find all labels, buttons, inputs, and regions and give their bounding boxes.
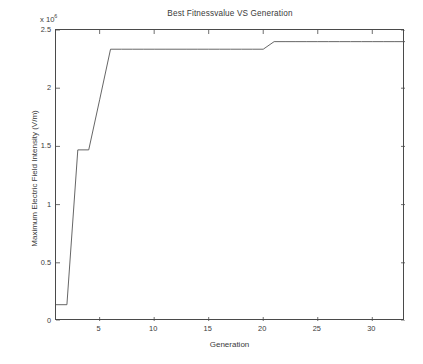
- x-tick-label: 20: [247, 324, 277, 333]
- y-tick-label: 0: [26, 316, 51, 325]
- y-axis-exponent-label: x 106: [40, 13, 57, 24]
- y-tick-label: 2.5: [26, 25, 51, 34]
- x-tick-label: 25: [302, 324, 332, 333]
- tick-marks-group: [56, 30, 405, 321]
- x-tick-label: 15: [193, 324, 223, 333]
- plot-svg: [56, 30, 405, 321]
- x-tick-label: 30: [356, 324, 386, 333]
- y-exponent-base: x 10: [40, 15, 54, 24]
- chart-figure: Best Fitnessvalue VS Generation x 106 00…: [0, 0, 423, 364]
- data-series-line: [56, 42, 405, 305]
- y-axis-title: Maximum Electric Field Intensity (V/m): [30, 59, 39, 299]
- y-exponent-power: 6: [54, 13, 57, 19]
- x-tick-label: 5: [84, 324, 114, 333]
- x-tick-label: 10: [138, 324, 168, 333]
- x-axis-title: Generation: [55, 340, 404, 349]
- chart-title: Best Fitnessvalue VS Generation: [55, 9, 405, 18]
- plot-area: [55, 29, 404, 320]
